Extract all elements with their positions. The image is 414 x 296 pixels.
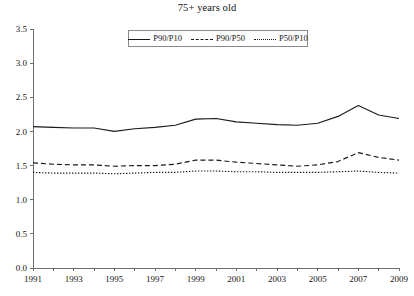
x-axis-tick-label: 1997 xyxy=(146,274,165,284)
x-axis-tick-label: 2007 xyxy=(349,274,368,284)
x-axis-tick-label: 1995 xyxy=(105,274,124,284)
series-line-p90-p50 xyxy=(33,153,399,167)
y-axis-tick-label: 1.0 xyxy=(16,195,28,205)
data-series xyxy=(33,105,399,173)
axis-ticks xyxy=(30,29,400,271)
axes xyxy=(33,29,399,268)
x-axis-tick-label: 1991 xyxy=(24,274,42,284)
y-axis-tick-label: 3.0 xyxy=(16,58,28,68)
x-axis-tick-label: 1993 xyxy=(65,274,84,284)
x-axis-tick-label: 2009 xyxy=(390,274,409,284)
y-axis-tick-label: 2.0 xyxy=(16,127,28,137)
plot-area: 0.00.51.01.52.02.53.03.51991199319951997… xyxy=(0,0,414,296)
x-axis-tick-label: 2003 xyxy=(268,274,287,284)
y-axis-tick-label: 0.5 xyxy=(16,229,28,239)
x-axis-tick-label: 2001 xyxy=(227,274,245,284)
y-axis-tick-label: 1.5 xyxy=(16,161,28,171)
x-axis-tick-label: 1999 xyxy=(187,274,206,284)
y-axis-tick-label: 2.5 xyxy=(16,92,28,102)
chart-container: 75+ years old P90/P10 P90/P50 P50/P10 0.… xyxy=(0,0,414,296)
series-line-p90-p10 xyxy=(33,105,399,131)
axis-tick-labels: 0.00.51.01.52.02.53.03.51991199319951997… xyxy=(16,24,409,284)
x-axis-tick-label: 2005 xyxy=(309,274,328,284)
series-line-p50-p10 xyxy=(33,171,399,174)
y-axis-tick-label: 0.0 xyxy=(16,263,28,273)
y-axis-tick-label: 3.5 xyxy=(16,24,28,34)
